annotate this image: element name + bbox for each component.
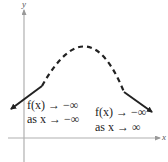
y-axis-label: y: [22, 0, 26, 9]
left-limit-line2: as x → −∞: [27, 113, 79, 125]
right-limit-line2: as x → ∞: [95, 121, 141, 133]
graph-canvas: [0, 0, 168, 162]
parabola-dashed-curve: [42, 46, 124, 92]
x-axis-label: x: [162, 133, 166, 142]
left-limit-line1: f(x) → −∞: [27, 99, 78, 111]
right-limit-line1: f(x) → −∞: [95, 106, 146, 118]
